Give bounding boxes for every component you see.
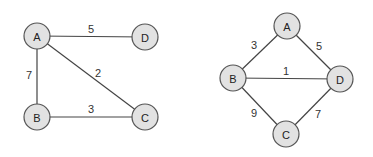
edge-weight-label: 9	[251, 107, 257, 119]
edge-weight-label: 5	[316, 40, 322, 52]
graph-left: 5723ADBC	[24, 23, 158, 130]
edge-weight-label: 7	[315, 108, 321, 120]
node-d: D	[327, 66, 353, 92]
edge-weight-label: 7	[26, 69, 32, 81]
edge-weight-label: 3	[88, 103, 94, 115]
node-label: B	[229, 73, 236, 85]
edge-weight-label: 3	[251, 39, 257, 51]
node-a: A	[274, 13, 300, 39]
node-label: D	[141, 32, 149, 44]
edge-weight-label: 5	[88, 23, 94, 35]
graph-right: 35197ABDC	[220, 13, 353, 147]
edge-weight-label: 2	[95, 67, 101, 79]
node-b: B	[220, 65, 246, 91]
node-a: A	[24, 23, 50, 49]
node-label: C	[282, 129, 290, 141]
node-label: B	[33, 112, 40, 124]
edge-a-d	[37, 36, 145, 37]
node-label: C	[141, 112, 149, 124]
node-c: C	[132, 104, 158, 130]
node-label: A	[283, 21, 291, 33]
node-d: D	[132, 24, 158, 50]
node-b: B	[24, 104, 50, 130]
node-label: D	[336, 74, 344, 86]
weighted-graphs-diagram: 5723ADBC35197ABDC	[0, 0, 373, 157]
node-label: A	[33, 31, 41, 43]
node-c: C	[273, 121, 299, 147]
edge-b-d	[233, 78, 340, 79]
edge-weight-label: 1	[283, 65, 289, 77]
